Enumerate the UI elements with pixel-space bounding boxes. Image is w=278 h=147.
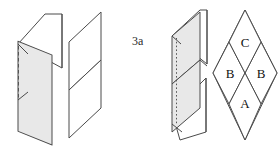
panel-label-3a: 3a: [132, 34, 144, 48]
diamond-label-right: B: [257, 66, 266, 81]
geometry-figure: 3a: [0, 0, 278, 147]
panel-diamond-lattice: C B B A: [213, 10, 277, 140]
diamond-label-top: C: [241, 35, 250, 50]
left-shaded-parallelogram: [18, 41, 52, 145]
diamond-label-left: B: [226, 66, 235, 81]
panel-right-pair: [172, 10, 207, 140]
diamond-label-bottom: A: [240, 96, 250, 111]
panel-left-pair: [18, 14, 62, 145]
figure-canvas: 3a: [0, 0, 278, 147]
panel-center-pair: [69, 12, 101, 138]
